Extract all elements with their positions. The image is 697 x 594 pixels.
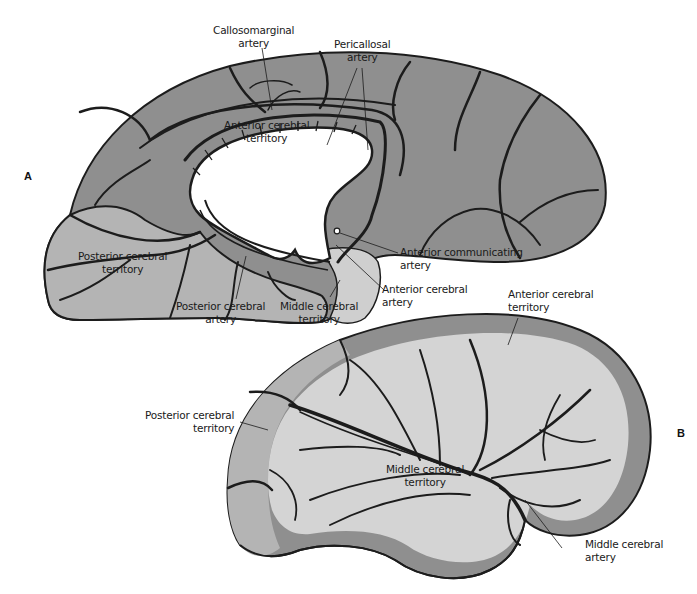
panel-label-b: B (677, 427, 685, 439)
anterior-communicating-artery-marker (334, 228, 340, 234)
label-anterior-cerebral-artery: Anterior cerebral artery (382, 283, 467, 309)
label-middle-cerebral-artery-b: Middle cerebral artery (585, 538, 663, 564)
label-middle-cerebral-territory-b: Middle cerebral territory (386, 463, 464, 489)
label-pericallosal-artery: Pericallosal artery (334, 38, 391, 64)
panel-label-a: A (24, 170, 32, 182)
label-posterior-cerebral-territory-a: Posterior cerebral territory (78, 250, 167, 276)
label-posterior-cerebral-artery-a: Posterior cerebral artery (176, 300, 265, 326)
label-anterior-communicating-artery: Anterior communicating artery (400, 246, 523, 272)
label-anterior-cerebral-territory-b: Anterior cerebral territory (508, 288, 593, 314)
label-anterior-cerebral-territory-a: Anterior cerebral territory (224, 119, 309, 145)
medial-brain-view (44, 48, 605, 323)
label-callosomarginal-artery: Callosomarginal artery (213, 24, 294, 50)
label-middle-cerebral-territory-a: Middle cerebral territory (280, 300, 358, 326)
label-posterior-cerebral-territory-b: Posterior cerebral territory (145, 409, 234, 435)
